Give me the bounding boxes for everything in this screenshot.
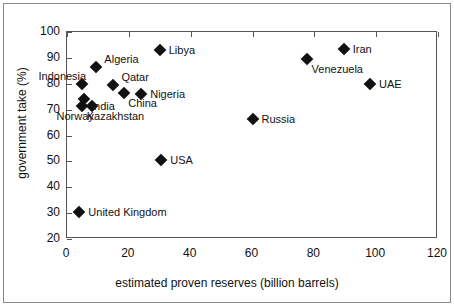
y-tick-mark: [67, 239, 72, 240]
x-tick-mark: [191, 32, 192, 37]
y-tick-label: 80: [30, 76, 60, 90]
x-tick-mark: [438, 32, 439, 37]
x-tick-label: 80: [307, 246, 320, 260]
data-point-label: Algeria: [104, 53, 138, 65]
x-tick-label: 20: [121, 246, 134, 260]
y-tick-label: 50: [30, 153, 60, 167]
data-point-marker: [337, 42, 350, 55]
plot-area: United KingdomNorwayIndonesiaIndiaKazakh…: [66, 31, 437, 238]
x-tick-mark: [376, 32, 377, 37]
y-tick-mark: [67, 213, 72, 214]
data-point-marker: [90, 61, 103, 74]
x-tick-label: 100: [365, 246, 385, 260]
data-point-label: Iran: [353, 43, 372, 55]
data-point-label: Nigeria: [150, 88, 185, 100]
y-tick-label: 100: [30, 24, 60, 38]
data-point-marker: [364, 77, 377, 90]
x-axis-title: estimated proven reserves (billion barre…: [0, 276, 454, 290]
data-point-marker: [153, 44, 166, 57]
data-point-label: United Kingdom: [88, 206, 166, 218]
data-point-marker: [246, 112, 259, 125]
y-tick-label: 90: [30, 50, 60, 64]
y-tick-label: 40: [30, 179, 60, 193]
y-tick-label: 70: [30, 102, 60, 116]
x-tick-label: 60: [245, 246, 258, 260]
y-tick-label: 20: [30, 231, 60, 245]
y-tick-mark: [67, 161, 72, 162]
x-tick-mark: [253, 32, 254, 37]
data-point-label: Kazakhstan: [87, 110, 144, 122]
x-tick-label: 40: [183, 246, 196, 260]
y-tick-mark: [67, 84, 72, 85]
data-point-label: Russia: [262, 113, 296, 125]
y-tick-mark: [67, 32, 72, 33]
data-point-label: Libya: [169, 44, 195, 56]
data-point-marker: [107, 79, 120, 92]
x-tick-mark: [314, 32, 315, 37]
x-tick-mark: [129, 32, 130, 37]
scatter-chart-figure: government take (%) United KingdomNorway…: [0, 0, 454, 306]
data-point-label: UAE: [379, 78, 402, 90]
y-axis-title: government take (%): [15, 53, 29, 193]
x-tick-label: 0: [63, 246, 70, 260]
y-tick-mark: [67, 187, 72, 188]
data-point-marker: [73, 205, 86, 218]
y-tick-label: 30: [30, 205, 60, 219]
x-tick-label: 120: [427, 246, 447, 260]
data-point-marker: [155, 154, 168, 167]
data-point-label: USA: [170, 154, 193, 166]
data-point-label: Venezuela: [312, 63, 363, 75]
y-tick-mark: [67, 136, 72, 137]
y-tick-label: 60: [30, 128, 60, 142]
data-point-label: Qatar: [121, 71, 149, 83]
y-tick-mark: [67, 58, 72, 59]
